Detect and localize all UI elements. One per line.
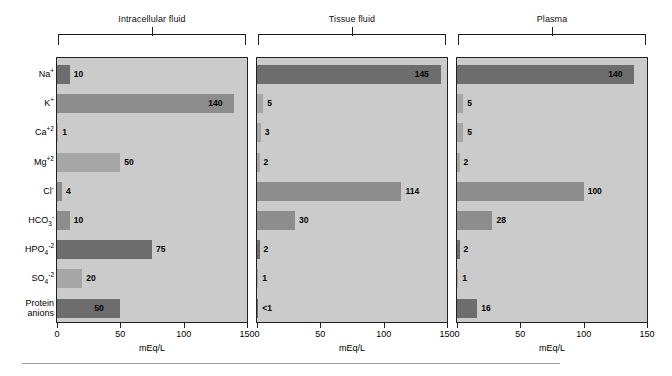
x-axis-tick-label: 50 [515,329,525,339]
bar-value-label: 2 [264,241,269,258]
x-axis-tick [257,323,258,328]
bar [57,240,152,259]
plot-inner: 1455321143021<1 [257,58,447,322]
bar [57,211,70,230]
x-axis-tick-label: 0 [454,329,459,339]
bar-value-label: 30 [299,212,308,229]
bar [257,153,260,172]
bar [57,299,120,318]
bar-value-label: 5 [267,95,272,112]
x-axis-tick-label: 100 [376,329,391,339]
bar [257,211,295,230]
x-axis-tick [247,323,248,328]
x-axis-tick [584,323,585,328]
bar-row: 1 [57,118,247,148]
bracket-center-tick [152,27,153,36]
bar-value-label: 75 [156,241,165,258]
bar-value-label: 2 [264,154,269,171]
bar-value-label: 1 [62,124,67,141]
bar-row: 1 [257,264,447,294]
x-axis-tick [647,323,648,328]
x-axis-title: mEq/L [256,343,448,353]
bar-row: 16 [457,294,647,324]
bar-row: 114 [257,177,447,207]
x-axis-tick [520,323,521,328]
x-axis: 050100150mEq/L [256,323,448,324]
x-axis-tick-label: 150 [639,329,654,339]
bar [257,65,441,84]
bar-value-label: <1 [262,300,272,317]
bar-row: 30 [257,206,447,236]
x-axis-tick-label: 0 [54,329,59,339]
x-axis-tick-label: 150 [439,329,454,339]
bar-row: 100 [457,177,647,207]
bar [57,153,120,172]
bar-value-label: 4 [66,183,71,200]
x-axis: 050100150mEq/L [456,323,648,324]
plot-inner: 140552100282116 [457,58,647,322]
electrolyte-composition-chart: Na+K+Ca+2Mg+2Cl-HCO3-HPO4-2SO4-2Proteina… [0,0,672,376]
x-axis-tick-label: 150 [239,329,254,339]
bar-value-label: 2 [464,154,469,171]
panel-title: Intracellular fluid [56,14,248,24]
panel-title: Plasma [456,14,648,24]
bar [457,211,492,230]
bar-value-label: 2 [464,241,469,258]
bar-row: 145 [257,60,447,90]
bar [457,299,477,318]
bar-row: 50 [57,294,247,324]
bar-value-label: 10 [74,212,83,229]
bracket-center-tick [552,27,553,36]
plot-area: 10140150410752050 [56,57,248,323]
bar-row: 5 [257,89,447,119]
bar-row: 140 [57,89,247,119]
bar-row: 20 [57,264,247,294]
bar-value-label: 3 [265,124,270,141]
panel-bracket [258,34,446,45]
bar [457,269,458,288]
bar [57,269,82,288]
x-axis-tick [184,323,185,328]
plot-area: 140552100282116 [456,57,648,323]
bar-value-label: 140 [208,95,222,112]
panel-bracket [458,34,646,45]
bar-value-label: 16 [481,300,490,317]
panel-intracellular-fluid: Intracellular fluid101401504107520500501… [56,0,248,340]
bar-value-label: 145 [415,66,429,83]
bar-value-label: 100 [588,183,602,200]
x-axis-tick [120,323,121,328]
bar-row: <1 [257,294,447,324]
bar-value-label: 5 [467,124,472,141]
x-axis-tick-label: 50 [315,329,325,339]
bar-row: 75 [57,235,247,265]
bar-row: 2 [457,235,647,265]
bar [457,153,460,172]
bar-row: 3 [257,118,447,148]
panel-plasma: Plasma140552100282116050100150mEq/L [456,0,648,340]
bar-value-label: 50 [94,300,103,317]
bar-value-label: 114 [405,183,419,200]
bar-row: 2 [257,235,447,265]
bar [57,123,58,142]
bar-row: 140 [457,60,647,90]
bar-row: 5 [457,89,647,119]
x-axis-tick-label: 100 [576,329,591,339]
panel-bracket [58,34,246,45]
bar-value-label: 28 [496,212,505,229]
bar-value-label: 50 [124,154,133,171]
bar-row: 28 [457,206,647,236]
x-axis-tick [447,323,448,328]
x-axis-tick-label: 0 [254,329,259,339]
x-axis-tick-label: 50 [115,329,125,339]
x-axis-tick [320,323,321,328]
panel-title: Tissue fluid [256,14,448,24]
x-axis-tick [57,323,58,328]
bar-row: 10 [57,60,247,90]
plot-inner: 10140150410752050 [57,58,247,322]
x-axis: 050100150mEq/L [56,323,248,324]
bar-row: 5 [457,118,647,148]
bar-row: 50 [57,148,247,178]
bar [57,65,70,84]
bar-value-label: 140 [608,66,622,83]
bar-value-label: 20 [86,270,95,287]
